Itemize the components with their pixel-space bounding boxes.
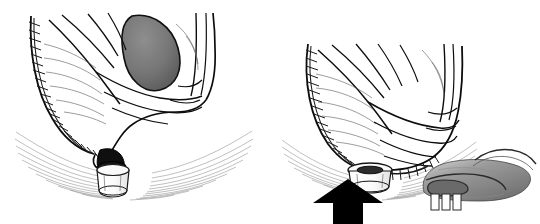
anal-sphincter-fibers	[15, 131, 253, 200]
colon-wall-outline	[306, 44, 462, 170]
right-panel-canvas	[270, 0, 540, 224]
surgical-illustration-figure	[0, 0, 540, 224]
left-panel	[0, 0, 270, 224]
right-panel	[270, 0, 540, 224]
stapler-anvil	[97, 165, 129, 198]
left-panel-canvas	[0, 0, 270, 224]
mucosal-folds	[316, 44, 459, 166]
lumen-shadow	[122, 15, 180, 90]
